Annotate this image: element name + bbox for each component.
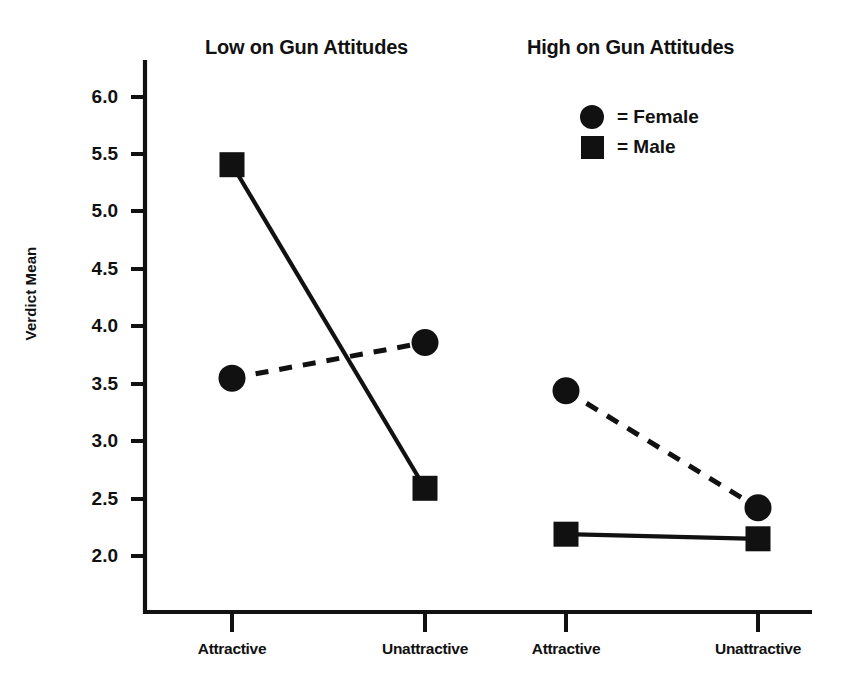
axis-group [131,60,812,632]
data-series-layer [219,152,772,551]
data-point-female [219,365,246,392]
x-axis-ticks [232,612,758,632]
data-point-male [746,526,771,551]
chart-figure: Low on Gun Attitudes High on Gun Attitud… [0,0,851,695]
data-point-female [412,329,439,356]
data-point-male [413,476,438,501]
plot-area [0,0,851,695]
series-line-male [566,534,758,539]
axis-spines [145,60,812,612]
data-point-male [220,152,245,177]
series-line-female [232,343,425,379]
series-line-female [566,391,758,508]
series-line-male [232,165,425,489]
data-point-female [745,494,772,521]
data-point-male [554,522,579,547]
data-point-female [553,377,580,404]
